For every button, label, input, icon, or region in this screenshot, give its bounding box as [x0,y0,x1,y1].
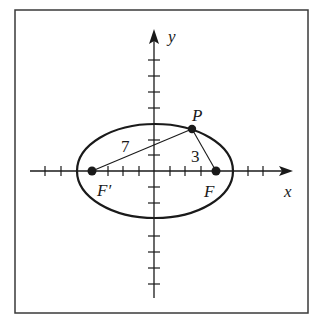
segment-f-prime-to-p [92,129,192,171]
point-p [188,125,196,133]
x-axis-label: x [283,182,292,201]
focus-f-point [212,167,221,176]
focus-f-prime-point [88,167,97,176]
segment-length-7-label: 7 [121,137,130,156]
x-axis [30,166,293,176]
ellipse-diagram: y x P F F′ 7 3 [0,0,310,322]
point-p-label: P [191,106,202,125]
figure-frame [15,10,308,313]
focus-f-prime-label: F′ [96,181,111,200]
segment-length-3-label: 3 [191,147,200,166]
y-axis-label: y [166,27,176,46]
y-axis [148,29,160,298]
focus-f-label: F [203,182,215,201]
